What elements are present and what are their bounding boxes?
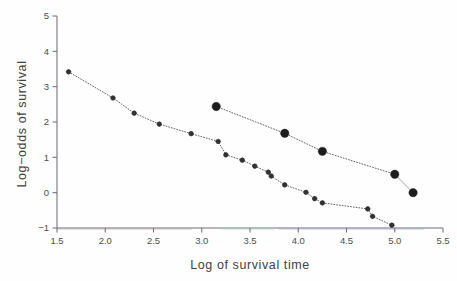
x-axis-tick-label: 2.0 [99, 235, 112, 246]
x-axis-tick-labels: 1.52.02.53.03.54.04.55.05.5 [50, 235, 449, 246]
y-axis-tick-label: 2 [44, 116, 49, 127]
y-axis-ticks [53, 16, 58, 228]
x-axis-tick-label: 5.5 [436, 235, 449, 246]
x-axis-tick-label: 2.5 [147, 235, 160, 246]
x-axis-tick-label: 1.5 [50, 235, 63, 246]
x-axis-tick-label: 4.0 [292, 235, 305, 246]
x-axis-title: Log of survival time [190, 258, 310, 272]
data-point-upper [409, 188, 417, 196]
data-point-upper [212, 102, 220, 110]
x-axis-tick-label: 3.5 [243, 235, 256, 246]
chart-figure: 1.52.02.53.03.54.04.55.05.5 −1012345 Log… [0, 0, 457, 281]
y-axis-tick-label: −1 [38, 222, 49, 233]
data-series-group [66, 69, 417, 227]
data-point-upper [318, 147, 326, 155]
y-axis-tick-labels: −1012345 [38, 10, 49, 233]
y-axis-title: Log−odds of survival [15, 60, 29, 187]
data-point-upper [281, 129, 289, 137]
plot-canvas: 1.52.02.53.03.54.04.55.05.5 −1012345 Log… [0, 0, 457, 281]
y-axis-tick-label: 3 [44, 81, 49, 92]
x-axis-tick-label: 3.0 [195, 235, 208, 246]
data-point-upper [391, 170, 399, 178]
y-axis-tick-label: 4 [44, 46, 49, 57]
x-axis-tick-label: 4.5 [340, 235, 353, 246]
series-lower-line [69, 72, 392, 225]
y-axis-tick-label: 5 [44, 10, 49, 21]
series-lower [66, 69, 394, 227]
y-axis-tick-label: 1 [44, 152, 49, 163]
axes-group [57, 16, 443, 229]
x-axis-tick-label: 5.0 [388, 235, 401, 246]
series-upper [212, 102, 417, 197]
series-upper-line [216, 106, 413, 192]
y-axis-tick-label: 0 [44, 187, 49, 198]
